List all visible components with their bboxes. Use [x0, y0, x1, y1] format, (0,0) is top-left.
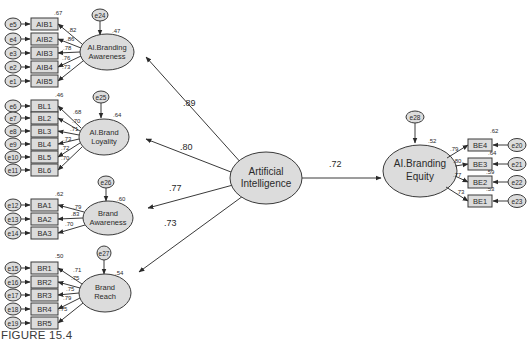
svg-text:AI.Branding: AI.Branding: [394, 158, 446, 169]
indicator-label: BL3: [38, 127, 51, 136]
error-label: e7: [9, 115, 17, 122]
indicator-br1: e15BR1: [5, 262, 58, 274]
indicator-aib1: e5AIB1: [5, 18, 58, 30]
svg-text:.79: .79: [450, 146, 459, 152]
error-label: e6: [9, 103, 17, 110]
svg-text:BE2: BE2: [473, 178, 487, 187]
svg-text:.50: .50: [55, 253, 64, 259]
indicator-aib2: e4AIB2: [5, 33, 58, 45]
svg-text:.83: .83: [71, 211, 80, 217]
indicator-be1: BE1e23: [468, 195, 526, 208]
svg-text:.70: .70: [61, 155, 70, 161]
indicator-label: BR5: [37, 319, 52, 328]
svg-text:.67: .67: [54, 10, 63, 16]
indicator-bl5: e10BL5: [5, 151, 58, 163]
svg-text:.76: .76: [62, 55, 71, 61]
right-indicators: BE4e20BE3e21BE2e22BE1e23: [468, 139, 526, 208]
svg-text:BE4: BE4: [473, 141, 487, 150]
construct-brand-awareness: e26 .60 Brand Awareness .62 .79 .83 .70: [55, 176, 133, 235]
svg-text:.75: .75: [71, 275, 80, 281]
error-label: e8: [9, 128, 17, 135]
indicator-label: BL1: [38, 102, 51, 111]
svg-text:.75: .75: [66, 286, 75, 292]
svg-text:.73: .73: [62, 64, 71, 70]
error-label: e2: [9, 64, 17, 71]
indicator-label: AIB2: [36, 35, 52, 44]
indicator-bl3: e8BL3: [5, 125, 58, 137]
indicator-label: BA2: [37, 215, 51, 224]
indicator-bl6: e11BL6: [5, 164, 58, 176]
coef-aibl: .80: [180, 142, 193, 152]
svg-text:.68: .68: [73, 109, 82, 115]
svg-text:BE1: BE1: [473, 197, 487, 206]
coef-br: .73: [164, 218, 177, 228]
path-ai-to-ba: [148, 185, 233, 208]
svg-text:e25: e25: [96, 94, 107, 101]
indicator-be3: BE3e21: [468, 158, 526, 171]
construct-brand-reach: e27 .54 Brand Reach .50 .71 .75 .75 .79 …: [55, 246, 131, 323]
indicator-label: AIB3: [36, 49, 52, 58]
indicator-label: BL6: [38, 166, 51, 175]
indicator-label: BR1: [37, 264, 52, 273]
error-label: e19: [8, 320, 19, 327]
indicator-label: BR3: [37, 291, 52, 300]
svg-text:.62: .62: [490, 128, 499, 134]
error-label: e16: [8, 279, 19, 286]
svg-text:e20: e20: [512, 142, 523, 149]
indicator-ba2: e13BA2: [5, 213, 58, 225]
indicator-ba1: e12BA1: [5, 199, 58, 211]
svg-text:.79: .79: [73, 204, 82, 210]
error-label: e10: [8, 154, 19, 161]
coef-aibe: .72: [329, 159, 342, 169]
svg-text:Loyality: Loyality: [91, 137, 117, 146]
svg-text:BE3: BE3: [473, 160, 487, 169]
construct-ai-branding-awareness: e24 .47 AI.Branding Awareness .67 .82 .8…: [54, 9, 134, 81]
indicator-bl2: e7BL2: [5, 112, 58, 124]
svg-text:.52: .52: [428, 138, 437, 144]
error-label: e18: [8, 306, 19, 313]
svg-text:.70: .70: [72, 118, 81, 124]
error-label: e3: [9, 50, 17, 57]
coef-aiba: .89: [183, 98, 196, 108]
svg-text:.75: .75: [59, 306, 68, 312]
svg-text:AI.Brand: AI.Brand: [89, 128, 118, 137]
indicator-be2: BE2e22: [468, 176, 526, 189]
svg-text:.82: .82: [68, 27, 77, 33]
coef-ba: .77: [169, 183, 182, 193]
svg-text:AI.Branding: AI.Branding: [87, 43, 126, 52]
svg-text:Reach: Reach: [94, 292, 116, 301]
indicator-label: BR2: [37, 278, 52, 287]
svg-text:Equity: Equity: [406, 171, 434, 182]
indicator-br2: e16BR2: [5, 276, 58, 288]
r2-aiba: .47: [112, 28, 121, 34]
svg-text:.73: .73: [456, 189, 465, 195]
sem-diagram: .89 .80 .77 .73 .72 Artificial Intellige…: [0, 0, 531, 347]
indicator-aib3: e3AIB3: [5, 47, 58, 59]
indicator-br5: e19BR5: [5, 317, 58, 329]
indicator-label: BR4: [37, 305, 52, 314]
latent-artificial-intelligence: Artificial Intelligence: [230, 152, 302, 204]
svg-text:e27: e27: [99, 250, 110, 257]
indicator-br4: e18BR4: [5, 303, 58, 315]
indicator-be4: BE4e20: [468, 139, 526, 152]
svg-text:Intelligence: Intelligence: [241, 178, 292, 189]
svg-text:.46: .46: [55, 92, 64, 98]
path-ai-to-aiba: [146, 57, 243, 165]
svg-text:.62: .62: [55, 191, 64, 197]
svg-text:e28: e28: [410, 114, 421, 121]
indicator-label: BL5: [38, 153, 51, 162]
svg-text:e23: e23: [512, 198, 523, 205]
indicator-label: AIB1: [36, 20, 52, 29]
error-label: e14: [8, 230, 19, 237]
error-label: e11: [8, 167, 19, 174]
error-label: e4: [9, 36, 17, 43]
indicator-ba3: e14BA3: [5, 227, 58, 239]
error-label: e12: [8, 202, 19, 209]
indicator-bl4: e9BL4: [5, 138, 58, 150]
indicator-bl1: e6BL1: [5, 100, 58, 112]
indicator-label: AIB5: [36, 77, 52, 86]
svg-text:Awareness: Awareness: [89, 52, 126, 61]
indicator-br3: e17BR3: [5, 289, 58, 301]
svg-text:.79: .79: [63, 295, 72, 301]
svg-text:.77: .77: [453, 172, 462, 178]
